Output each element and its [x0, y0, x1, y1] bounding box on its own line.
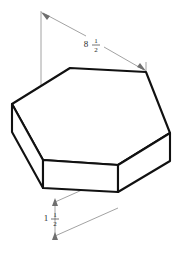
dimension-width-numerator: 1 [94, 37, 98, 45]
dimension-thickness-numerator: 1 [53, 211, 57, 219]
dimension-label-thickness: 1 1 2 [44, 211, 59, 228]
hexagonal-prism-drawing: 8 1 2 1 1 2 [0, 0, 181, 257]
dimension-width-whole: 8 [84, 39, 89, 49]
dimension-thickness-denominator: 2 [53, 220, 57, 228]
dimension-thickness-whole: 1 [44, 213, 49, 223]
arrowhead-thickness-bottom [52, 232, 58, 240]
dimension-width-denominator: 2 [94, 46, 98, 54]
dimension-label-width: 8 1 2 [84, 37, 100, 54]
arrowhead-thickness-top [52, 198, 58, 206]
dimension-leader-thickness-bottom [55, 208, 118, 236]
arrowhead-width-left [41, 12, 50, 20]
technical-drawing-canvas: 8 1 2 1 1 2 [0, 0, 181, 257]
arrowhead-width-right [137, 63, 146, 71]
prism-front-left-face [43, 160, 118, 192]
